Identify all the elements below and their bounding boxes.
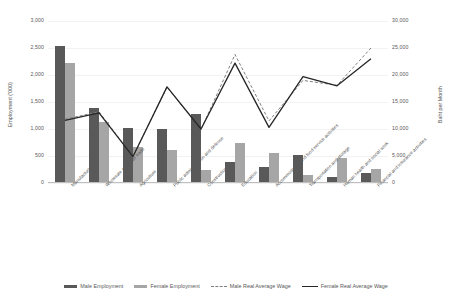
legend-label: Female Real Average Wage — [321, 284, 388, 289]
legend-bar-swatch — [134, 285, 147, 288]
legend-line-swatch — [211, 286, 227, 287]
legend-label: Male Real Average Wage — [230, 284, 291, 289]
legend-line-swatch — [302, 286, 318, 287]
legend-bar-swatch — [64, 285, 77, 288]
y-axis-right-title: Baht per Month — [438, 68, 443, 142]
y-axis-left-tick-label: 1,500 — [31, 99, 44, 104]
legend-label: Male Employment — [80, 284, 123, 289]
legend-item[interactable]: Male Real Average Wage — [211, 284, 291, 289]
y-axis-right-tick-label: 30,000 — [392, 18, 408, 23]
y-axis-left-tick-label: 0 — [41, 180, 44, 185]
legend-label: Female Employment — [150, 284, 199, 289]
y-axis-left-tick-label: 1,000 — [31, 126, 44, 131]
y-axis-left-ticks: 05001,0001,5002,0002,5003,000 — [0, 21, 44, 183]
chart-legend: Male EmploymentFemale EmploymentMale Rea… — [0, 284, 452, 289]
gridline — [48, 183, 388, 184]
legend-item[interactable]: Male Employment — [64, 284, 123, 289]
legend-item[interactable]: Female Real Average Wage — [302, 284, 388, 289]
y-axis-right-tick-label: 10,000 — [392, 126, 408, 131]
y-axis-left-tick-label: 3,000 — [31, 18, 44, 23]
x-axis-category-labels: ManufacturingWholesale and retail tradeA… — [48, 185, 388, 265]
legend-item[interactable]: Female Employment — [134, 284, 199, 289]
chart-container: Employment ('000) Baht per Month 05001,0… — [0, 0, 452, 297]
y-axis-left-tick-label: 500 — [35, 153, 44, 158]
x-axis-line — [48, 182, 388, 183]
y-axis-right-tick-label: 25,000 — [392, 45, 408, 50]
y-axis-right-tick-label: 15,000 — [392, 99, 408, 104]
y-axis-left-tick-label: 2,000 — [31, 72, 44, 77]
y-axis-right-ticks: 05,00010,00015,00020,00025,00030,000 — [392, 21, 436, 183]
y-axis-left-tick-label: 2,500 — [31, 45, 44, 50]
y-axis-right-tick-label: 20,000 — [392, 72, 408, 77]
y-axis-right-tick-label: 0 — [392, 180, 395, 185]
